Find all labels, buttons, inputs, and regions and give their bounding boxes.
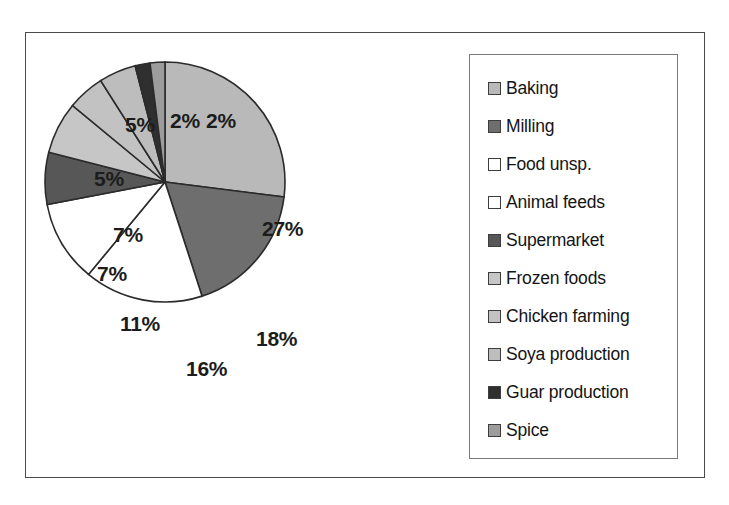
legend-item-label: Supermarket xyxy=(506,230,604,251)
legend-item[interactable]: Spice xyxy=(488,411,677,449)
legend-item-label: Baking xyxy=(506,78,558,99)
legend-item-label: Soya production xyxy=(506,344,629,365)
pie-chart-area: 27%18%16%11%7%7%5%5%2%2% xyxy=(26,33,466,479)
legend-item-label: Animal feeds xyxy=(506,192,605,213)
legend-color-swatch-icon xyxy=(488,272,501,285)
legend-color-swatch-icon xyxy=(488,158,501,171)
chart-legend: BakingMillingFood unsp.Animal feedsSuper… xyxy=(469,54,678,459)
pie-slice-label: 11% xyxy=(120,312,160,336)
legend-color-swatch-icon xyxy=(488,310,501,323)
legend-item-label: Spice xyxy=(506,420,549,441)
legend-color-swatch-icon xyxy=(488,196,501,209)
legend-color-swatch-icon xyxy=(488,386,501,399)
pie-chart-graphic xyxy=(44,61,294,311)
legend-item-label: Milling xyxy=(506,116,554,137)
legend-item-label: Guar production xyxy=(506,382,629,403)
pie-slice-label: 18% xyxy=(256,327,297,351)
pie-slice-label: 2% xyxy=(206,109,236,133)
legend-item-label: Frozen foods xyxy=(506,268,606,289)
pie-slice-label: 5% xyxy=(125,113,155,137)
legend-item-list: BakingMillingFood unsp.Animal feedsSuper… xyxy=(488,69,677,449)
legend-color-swatch-icon xyxy=(488,234,501,247)
legend-item[interactable]: Milling xyxy=(488,107,677,145)
legend-item-label: Chicken farming xyxy=(506,306,629,327)
legend-item[interactable]: Supermarket xyxy=(488,221,677,259)
pie-slice-label: 2% xyxy=(170,109,200,133)
chart-frame: 27%18%16%11%7%7%5%5%2%2% BakingMillingFo… xyxy=(25,32,705,478)
pie-slice-label: 16% xyxy=(186,357,227,381)
pie-slice-label: 27% xyxy=(262,217,303,241)
pie-slice-label: 7% xyxy=(113,223,143,247)
legend-item[interactable]: Food unsp. xyxy=(488,145,677,183)
legend-item[interactable]: Animal feeds xyxy=(488,183,677,221)
legend-item-label: Food unsp. xyxy=(506,154,592,175)
legend-color-swatch-icon xyxy=(488,120,501,133)
legend-color-swatch-icon xyxy=(488,424,501,437)
pie-slice-label: 5% xyxy=(94,167,124,191)
legend-item[interactable]: Soya production xyxy=(488,335,677,373)
pie-slice-label: 7% xyxy=(97,262,127,286)
legend-color-swatch-icon xyxy=(488,82,501,95)
legend-color-swatch-icon xyxy=(488,348,501,361)
legend-item[interactable]: Guar production xyxy=(488,373,677,411)
legend-item[interactable]: Frozen foods xyxy=(488,259,677,297)
legend-item[interactable]: Chicken farming xyxy=(488,297,677,335)
legend-item[interactable]: Baking xyxy=(488,69,677,107)
